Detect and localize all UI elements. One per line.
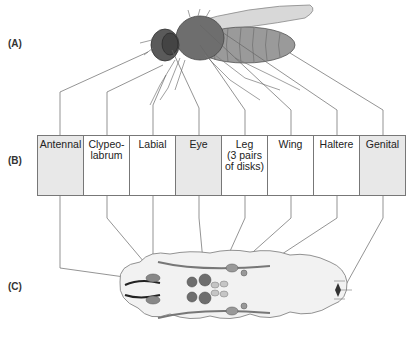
disk-cell-antennal: Antennal	[37, 135, 84, 196]
disk-label: Antennal	[40, 138, 81, 150]
disk-cell-haltere: Haltere	[313, 135, 360, 196]
adult-fly	[140, 5, 313, 105]
disk-cell-wing: Wing	[267, 135, 314, 196]
disk-label: Haltere	[320, 138, 354, 150]
larva	[120, 250, 352, 318]
disk-cell-leg: Leg (3 pairs of disks)	[221, 135, 268, 196]
disk-label: Wing	[279, 138, 303, 150]
disk-cell-labial: Labial	[129, 135, 176, 196]
disk-label: Clypeo- labrum	[88, 138, 124, 161]
disk-cell-genital: Genital	[359, 135, 406, 196]
disk-label: Leg (3 pairs of disks)	[225, 138, 264, 172]
disk-cell-eye: Eye	[175, 135, 222, 196]
disk-cell-clypeolabrum: Clypeo- labrum	[83, 135, 130, 196]
disk-label: Labial	[138, 138, 166, 150]
disk-label: Genital	[366, 138, 399, 150]
disk-label: Eye	[189, 138, 207, 150]
